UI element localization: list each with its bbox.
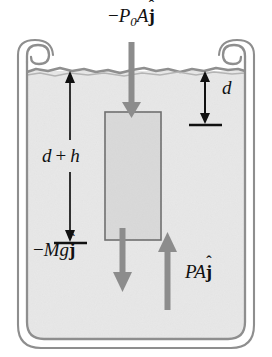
label-A: A xyxy=(194,261,206,282)
label-P: P xyxy=(119,5,131,26)
hat-accent: ˆ xyxy=(206,254,211,270)
pressure-arrow-shaft xyxy=(129,42,135,104)
label-g: g xyxy=(60,239,70,260)
submerged-block xyxy=(105,112,161,240)
weight-arrow-shaft xyxy=(120,228,126,274)
label-M: M xyxy=(44,239,60,260)
container-rim-left xyxy=(27,45,49,64)
buoyant-arrow-shaft xyxy=(165,248,171,310)
label-j-hat: ˆj xyxy=(148,6,154,25)
label-P: P xyxy=(185,261,194,282)
label-depth-d: d xyxy=(222,78,232,97)
label-weight-force: −Mgˆj xyxy=(33,240,75,259)
physics-diagram-figure: −P0Aˆj d d+h −Mgˆj PAˆj xyxy=(0,0,272,357)
diagram-canvas xyxy=(0,0,272,357)
label-minus-sign: − xyxy=(108,5,119,26)
hat-accent: ˆ xyxy=(149,0,154,14)
label-j-hat: ˆj xyxy=(206,262,212,281)
label-h: h xyxy=(70,145,80,166)
label-pressure-force: −P0Aˆj xyxy=(108,6,155,29)
label-j-hat: ˆj xyxy=(69,240,75,259)
label-minus-sign: − xyxy=(33,239,44,260)
block-texture xyxy=(105,112,161,240)
label-depth-d-plus-h: d+h xyxy=(42,146,80,165)
label-d: d xyxy=(42,145,52,166)
label-A: A xyxy=(137,5,149,26)
label-plus-sign: + xyxy=(52,145,71,166)
label-buoyant-force: PAˆj xyxy=(185,262,212,281)
container-rim-right xyxy=(223,45,245,64)
hat-accent: ˆ xyxy=(70,232,75,248)
